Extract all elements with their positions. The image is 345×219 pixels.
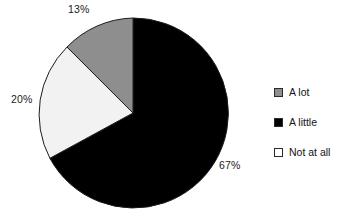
legend-label-a-little: A little — [289, 117, 317, 128]
pie-label-a-lot: 13% — [68, 4, 90, 15]
legend-swatch-a-little — [274, 118, 283, 127]
legend-item-a-lot[interactable]: A lot — [274, 83, 344, 102]
legend-item-a-little[interactable]: A little — [274, 113, 344, 132]
legend-swatch-a-lot — [274, 88, 283, 97]
pie-label-a-little: 67% — [219, 160, 241, 171]
chart-legend: A lot A little Not at all — [274, 83, 344, 162]
pie-label-not-at-all: 20% — [11, 94, 33, 105]
pie-chart-figure: 13% 20% 67% A lot A little Not at all — [0, 0, 345, 219]
legend-swatch-not-at-all — [274, 148, 283, 157]
legend-item-not-at-all[interactable]: Not at all — [274, 143, 344, 162]
legend-label-a-lot: A lot — [289, 87, 309, 98]
legend-label-not-at-all: Not at all — [289, 147, 330, 158]
